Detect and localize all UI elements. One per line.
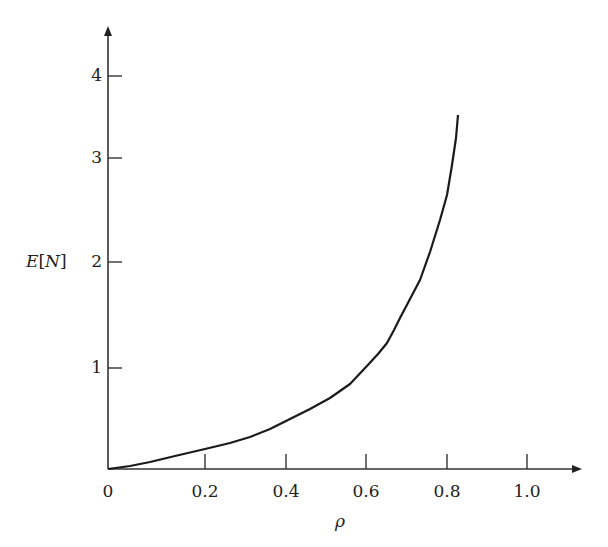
x-axis-arrow-icon bbox=[572, 465, 582, 473]
y-axis-label: E[N] bbox=[26, 253, 67, 270]
x-tick-label: 0.8 bbox=[433, 483, 460, 500]
y-tick-label: 3 bbox=[82, 149, 102, 166]
y-axis-arrow-icon bbox=[104, 26, 112, 36]
x-tick-label: 0.4 bbox=[272, 483, 299, 500]
y-tick-label: 2 bbox=[82, 253, 102, 270]
y-ticks bbox=[108, 76, 122, 368]
x-tick-label: 0.2 bbox=[191, 483, 218, 500]
x-ticks bbox=[205, 454, 527, 469]
y-tick-label: 1 bbox=[82, 359, 102, 376]
x-tick-label: 1.0 bbox=[513, 483, 540, 500]
y-tick-label: 4 bbox=[82, 67, 102, 84]
x-tick-label: 0 bbox=[103, 483, 114, 500]
series-line bbox=[108, 115, 458, 469]
x-tick-label: 0.6 bbox=[352, 483, 379, 500]
x-axis-label: ρ bbox=[335, 513, 345, 530]
